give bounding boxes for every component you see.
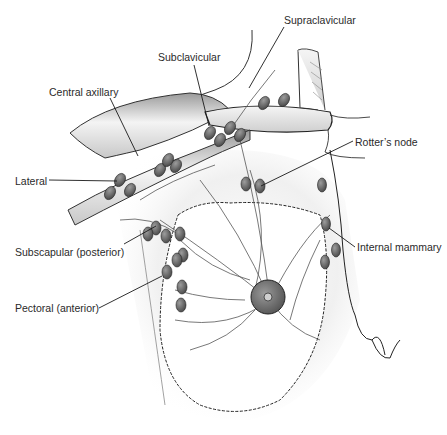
label-central-axillary: Central axillary [49,86,118,98]
clavicle [205,106,332,132]
label-subscapular-posterior: Subscapular (posterior) [15,246,124,258]
breast-lymphatics-diagram: Supraclavicular Subclavicular Central ax… [0,0,447,435]
label-lateral: Lateral [15,175,47,187]
anatomy-illustration [0,0,447,435]
label-supraclavicular: Supraclavicular [284,14,356,26]
label-subclavicular: Subclavicular [158,51,220,63]
nipple-areola [251,280,285,314]
label-pectoral-anterior: Pectoral (anterior) [15,302,99,314]
label-internal-mammary: Internal mammary [357,241,442,253]
label-rotters-node: Rotter’s node [355,136,418,148]
